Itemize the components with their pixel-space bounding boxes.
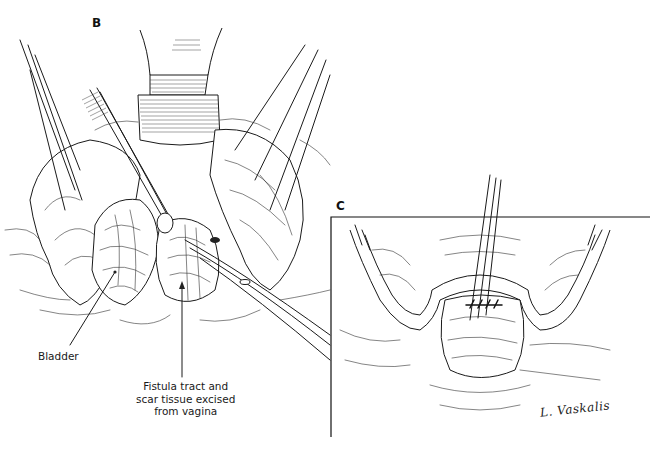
right-vaginal-flap xyxy=(210,129,303,290)
repaired-bladder xyxy=(441,295,524,378)
bladder-leader-dot xyxy=(113,270,116,273)
fistula-label: Fistula tract and scar tissue excised fr… xyxy=(136,380,235,418)
panel-b-label: B xyxy=(92,16,101,30)
fistula-label-line-3: from vagina xyxy=(136,405,235,418)
fistula-label-line-1: Fistula tract and xyxy=(136,380,235,393)
retractor-blade xyxy=(140,28,222,75)
fistula-label-line-2: scar tissue excised xyxy=(136,393,235,406)
panel-b-illustration xyxy=(0,0,650,451)
bladder-label: Bladder xyxy=(38,350,79,363)
fistula-opening xyxy=(210,237,220,243)
surgical-figure: B C Bladder Fistula tract and scar tissu… xyxy=(0,0,650,451)
bladder xyxy=(92,199,158,305)
panel-c-label: C xyxy=(336,199,345,213)
panel-b-artwork xyxy=(5,28,330,377)
